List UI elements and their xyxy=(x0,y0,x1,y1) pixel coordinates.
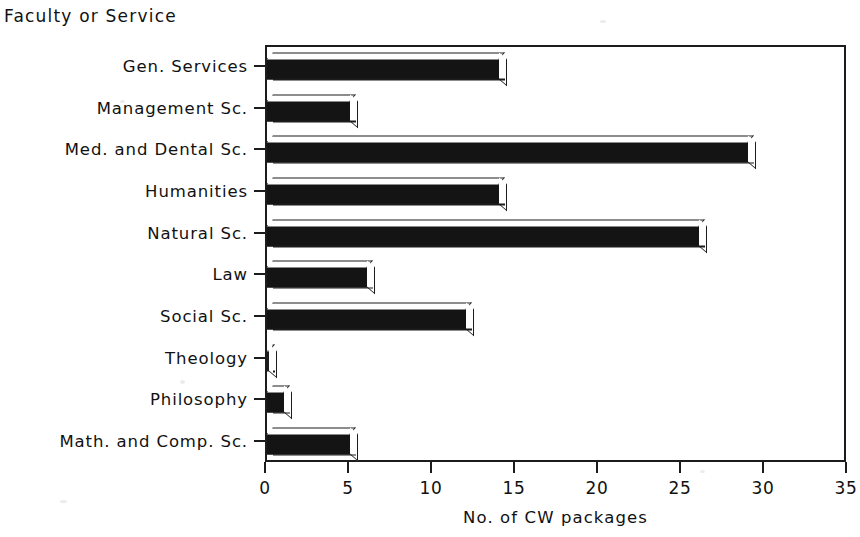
bar-row: Management Sc. xyxy=(0,87,860,129)
bar-bottom-shadow xyxy=(273,287,373,289)
bar-row: Philosophy xyxy=(0,379,860,421)
scan-speckle xyxy=(120,100,125,103)
bar xyxy=(267,177,507,204)
bar-bottom-shadow xyxy=(273,162,754,164)
x-axis-tick-label: 35 xyxy=(834,478,857,498)
bar-top-face xyxy=(267,136,754,143)
bar-row: Gen. Services xyxy=(0,45,860,87)
x-axis-tick xyxy=(845,462,847,473)
bar xyxy=(267,52,507,79)
bar-side-face xyxy=(284,386,292,420)
bar-bottom-shadow xyxy=(273,371,275,373)
bar-row: Humanities xyxy=(0,170,860,212)
bar-side-face xyxy=(466,303,474,337)
y-axis-tick xyxy=(254,440,267,442)
bar-row: Law xyxy=(0,254,860,296)
bar-side-face xyxy=(269,344,277,378)
y-axis-tick xyxy=(254,65,267,67)
category-label: Philosophy xyxy=(150,390,248,409)
bar-front-face xyxy=(267,183,499,204)
bar-rows: Gen. ServicesManagement Sc.Med. and Dent… xyxy=(0,45,860,462)
bar-side-face xyxy=(748,136,756,170)
bar-front-face xyxy=(267,225,699,246)
bar xyxy=(267,428,358,455)
x-axis-tick xyxy=(264,462,266,473)
scan-speckle xyxy=(600,20,606,23)
category-label: Social Sc. xyxy=(160,307,248,326)
bar-row: Theology xyxy=(0,337,860,379)
bar xyxy=(267,261,375,288)
x-axis-tick xyxy=(430,462,432,473)
scan-speckle xyxy=(180,380,185,384)
bar-side-face xyxy=(699,219,707,253)
bar-bottom-shadow xyxy=(273,120,356,122)
category-label: Humanities xyxy=(145,181,248,200)
x-axis-tick-label: 10 xyxy=(419,478,442,498)
y-axis-tick xyxy=(254,107,267,109)
bar-top-face xyxy=(267,428,356,435)
x-axis-tick-label: 30 xyxy=(751,478,774,498)
bar-top-face xyxy=(267,303,472,310)
bar-front-face xyxy=(267,434,350,455)
bar-front-face xyxy=(267,267,367,288)
y-axis-tick xyxy=(254,232,267,234)
y-axis-tick xyxy=(254,357,267,359)
category-label: Med. and Dental Sc. xyxy=(65,140,248,159)
y-axis-tick xyxy=(254,273,267,275)
x-axis: 05101520253035 xyxy=(265,462,846,463)
y-axis-tick xyxy=(254,190,267,192)
bar-top-face xyxy=(267,52,505,59)
x-axis-tick xyxy=(347,462,349,473)
category-label: Natural Sc. xyxy=(147,223,248,242)
bar-front-face xyxy=(267,309,466,330)
bar-row: Natural Sc. xyxy=(0,212,860,254)
bar xyxy=(267,344,277,371)
scan-speckle xyxy=(700,470,705,473)
bar-bottom-shadow xyxy=(273,412,290,414)
bar-side-face xyxy=(499,177,507,211)
bar-chart: Faculty or Service Gen. ServicesManageme… xyxy=(0,0,860,537)
bar-row: Social Sc. xyxy=(0,295,860,337)
x-axis-tick-label: 0 xyxy=(259,478,271,498)
bar-front-face xyxy=(267,392,284,413)
x-axis-tick xyxy=(762,462,764,473)
bar-row: Math. and Comp. Sc. xyxy=(0,420,860,462)
x-axis-tick xyxy=(513,462,515,473)
x-axis-title: No. of CW packages xyxy=(265,508,846,527)
category-label: Math. and Comp. Sc. xyxy=(59,432,248,451)
bar xyxy=(267,303,474,330)
y-axis-tick xyxy=(254,315,267,317)
bar-side-face xyxy=(350,94,358,128)
bar-front-face xyxy=(267,58,499,79)
bar xyxy=(267,386,292,413)
bar-side-face xyxy=(499,52,507,86)
x-axis-tick-label: 5 xyxy=(342,478,354,498)
bar xyxy=(267,94,358,121)
category-label: Theology xyxy=(165,348,248,367)
category-label: Law xyxy=(213,265,249,284)
y-axis-tick xyxy=(254,398,267,400)
bar-bottom-shadow xyxy=(273,246,705,248)
y-axis-tick xyxy=(254,148,267,150)
bar-top-face xyxy=(267,219,704,226)
bar-top-face xyxy=(267,94,356,101)
bar-bottom-shadow xyxy=(273,329,472,331)
y-axis-title: Faculty or Service xyxy=(4,6,177,26)
bar-top-face xyxy=(267,177,505,184)
bar-side-face xyxy=(367,261,375,295)
bar-front-face xyxy=(267,142,748,163)
bar-row: Med. and Dental Sc. xyxy=(0,128,860,170)
bar-bottom-shadow xyxy=(273,454,356,456)
bar-side-face xyxy=(350,428,358,462)
category-label: Gen. Services xyxy=(123,56,248,75)
x-axis-tick-label: 25 xyxy=(668,478,691,498)
x-axis-tick xyxy=(596,462,598,473)
bar xyxy=(267,219,707,246)
bar-bottom-shadow xyxy=(273,79,505,81)
scan-speckle xyxy=(60,500,67,503)
bar-bottom-shadow xyxy=(273,204,505,206)
bar-top-face xyxy=(267,261,372,268)
x-axis-tick-label: 15 xyxy=(502,478,525,498)
x-axis-tick-label: 20 xyxy=(585,478,608,498)
x-axis-tick xyxy=(679,462,681,473)
